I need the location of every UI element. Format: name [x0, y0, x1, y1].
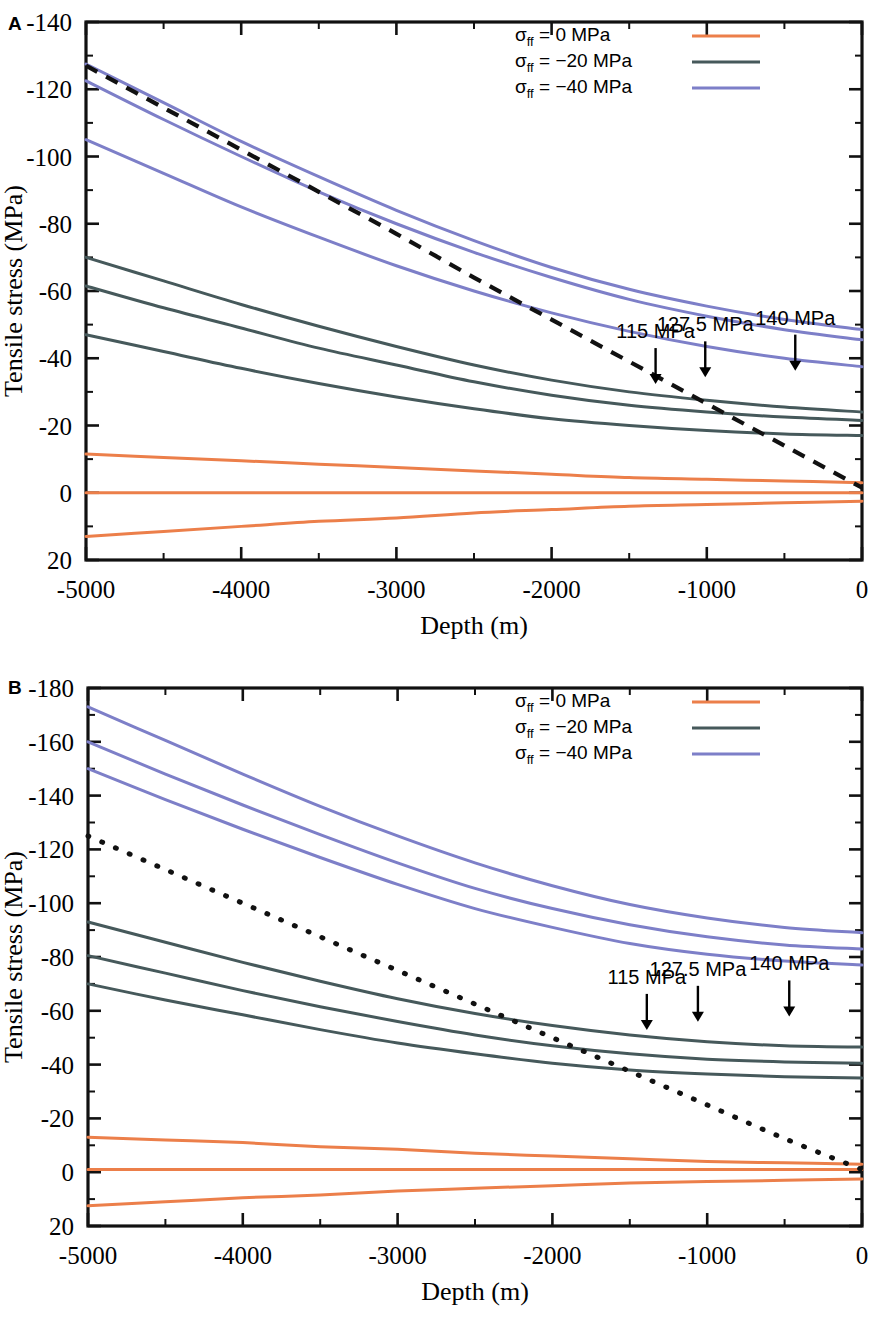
data-curve: [86, 81, 862, 340]
legend-sigma-glyph: σ: [515, 24, 527, 45]
panel-a: A -140-120-100-80-60-40-20020-5000-4000-…: [0, 0, 874, 660]
legend-value: −20 MPa: [555, 716, 632, 737]
legend-value: −20 MPa: [555, 50, 632, 71]
figure-root: A -140-120-100-80-60-40-20020-5000-4000-…: [0, 0, 874, 1326]
guide-line: [88, 836, 862, 1170]
data-curve: [88, 769, 862, 965]
y-tick-label: -100: [28, 890, 74, 917]
y-tick-label: -40: [39, 345, 72, 372]
y-tick-label: -100: [26, 144, 72, 171]
y-tick-label: -60: [39, 278, 72, 305]
legend-label-2: σff = −40 MPa: [515, 742, 632, 767]
y-axis-title: Tensile stress (MPa): [0, 851, 28, 1063]
data-curve: [86, 335, 862, 436]
legend-sigma-glyph: σ: [515, 76, 527, 97]
y-tick-label: -40: [41, 1052, 74, 1079]
x-tick-label: 0: [856, 576, 869, 603]
annotation-arrow-head: [789, 361, 801, 371]
y-tick-label: -160: [28, 729, 74, 756]
legend-sigma-glyph: σ: [515, 742, 527, 763]
y-tick-label: 0: [60, 480, 73, 507]
panel-a-plot: -140-120-100-80-60-40-20020-5000-4000-30…: [0, 0, 874, 660]
x-tick-label: -1000: [678, 1242, 736, 1269]
annotation-arrow-head: [692, 1012, 704, 1022]
legend-label-1: σff = −20 MPa: [515, 716, 632, 741]
y-tick-label: -140: [28, 783, 74, 810]
legend-value: 0 MPa: [555, 690, 610, 711]
data-curve: [88, 707, 862, 933]
legend-equals: =: [534, 716, 556, 737]
annotation-arrow-head: [641, 1020, 653, 1030]
legend-value: 0 MPa: [555, 24, 610, 45]
x-axis-title: Depth (m): [420, 611, 528, 640]
y-axis-title: Tensile stress (MPa): [0, 185, 28, 397]
data-curve: [86, 501, 862, 536]
x-tick-label: -1000: [678, 576, 736, 603]
x-tick-label: -2000: [522, 576, 580, 603]
x-tick-label: -5000: [57, 576, 115, 603]
legend-sigma-glyph: σ: [515, 50, 527, 71]
data-curve: [88, 984, 862, 1078]
legend-sigma-glyph: σ: [515, 690, 527, 711]
legend-label-1: σff = −20 MPa: [515, 50, 632, 75]
x-axis-title: Depth (m): [421, 1277, 529, 1306]
y-tick-label: 20: [49, 1213, 74, 1240]
annotation-label: 127.5 MPa: [657, 313, 755, 335]
x-tick-label: -3000: [368, 1242, 426, 1269]
legend-label-0: σff = 0 MPa: [515, 690, 611, 715]
legend-sigma-glyph: σ: [515, 716, 527, 737]
guide-line: [86, 66, 862, 488]
legend-label-0: σff = 0 MPa: [515, 24, 611, 49]
y-tick-label: -80: [41, 944, 74, 971]
x-tick-label: -5000: [59, 1242, 117, 1269]
legend-equals: =: [534, 50, 556, 71]
y-tick-label: -140: [26, 9, 72, 36]
legend-label-2: σff = −40 MPa: [515, 76, 632, 101]
x-tick-label: -2000: [523, 1242, 581, 1269]
x-tick-label: -4000: [212, 576, 270, 603]
y-tick-label: -180: [28, 675, 74, 702]
annotation-arrow-head: [699, 367, 711, 377]
y-tick-label: 0: [62, 1159, 75, 1186]
y-tick-label: 20: [47, 547, 72, 574]
y-tick-label: -120: [26, 76, 72, 103]
y-tick-label: -20: [39, 413, 72, 440]
y-tick-label: -80: [39, 211, 72, 238]
legend-equals: =: [534, 76, 556, 97]
y-tick-label: -60: [41, 998, 74, 1025]
legend-equals: =: [534, 24, 556, 45]
legend-value: −40 MPa: [555, 76, 632, 97]
legend-equals: =: [534, 742, 556, 763]
annotation-label: 140 MPa: [749, 952, 830, 974]
data-curve: [86, 454, 862, 483]
x-tick-label: -4000: [214, 1242, 272, 1269]
data-curve: [88, 1137, 862, 1164]
annotation-label: 127.5 MPa: [650, 958, 748, 980]
legend-equals: =: [534, 690, 556, 711]
x-tick-label: -3000: [367, 576, 425, 603]
annotation-arrow-head: [783, 1006, 795, 1016]
data-curve: [88, 742, 862, 949]
annotation-label: 140 MPa: [755, 307, 836, 329]
panel-b-plot: -180-160-140-120-100-80-60-40-20020-5000…: [0, 660, 874, 1326]
data-curve: [88, 1179, 862, 1206]
panel-b: B -180-160-140-120-100-80-60-40-20020-50…: [0, 660, 874, 1326]
y-tick-label: -120: [28, 836, 74, 863]
legend-value: −40 MPa: [555, 742, 632, 763]
x-tick-label: 0: [856, 1242, 869, 1269]
y-tick-label: -20: [41, 1105, 74, 1132]
